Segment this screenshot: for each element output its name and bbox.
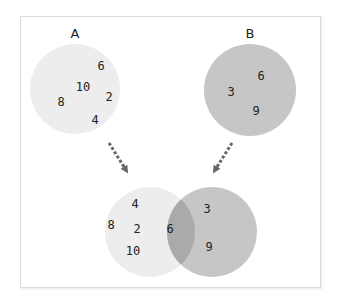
- set-a-element: 2: [105, 90, 112, 104]
- venn-diagram: A 6 10 2 8 4 B 6 3 9 4 8 2 10 6 3 9: [0, 0, 337, 304]
- arrow-b-icon: [215, 143, 232, 170]
- set-a-element: 8: [57, 95, 64, 109]
- arrow-a-icon: [109, 143, 126, 170]
- set-a-element: 4: [91, 113, 98, 127]
- intersection-element: 6: [166, 222, 173, 236]
- set-a-element: 10: [76, 80, 90, 94]
- set-a-label: A: [71, 26, 80, 41]
- set-b-element: 9: [252, 104, 259, 118]
- set-b-element: 6: [257, 69, 264, 83]
- set-b-element: 3: [227, 85, 234, 99]
- set-b: B 6 3 9: [204, 26, 296, 136]
- b-only-element: 9: [205, 240, 212, 254]
- b-only-element: 3: [203, 202, 210, 216]
- a-only-element: 2: [133, 222, 140, 236]
- set-b-label: B: [246, 26, 255, 41]
- a-only-element: 8: [107, 218, 114, 232]
- combined-venn: 4 8 2 10 6 3 9: [105, 187, 257, 277]
- a-only-element: 4: [131, 197, 138, 211]
- set-a: A 6 10 2 8 4: [30, 26, 120, 134]
- a-only-element: 10: [126, 244, 140, 258]
- set-a-element: 6: [97, 59, 104, 73]
- set-b-circle: [204, 44, 296, 136]
